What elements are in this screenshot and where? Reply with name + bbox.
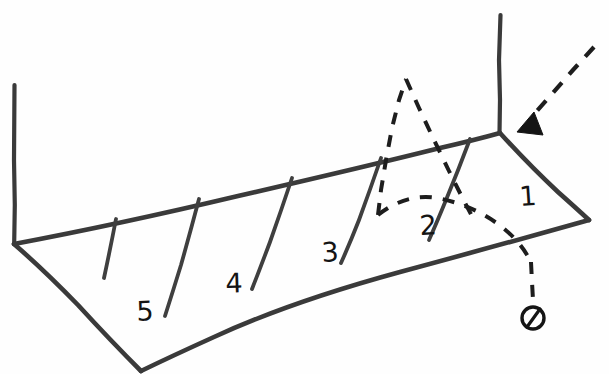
zone-label-2: 2 (419, 211, 438, 239)
sketch-canvas: 1 2 3 4 5 (0, 0, 609, 374)
ball-arc-group (378, 79, 533, 300)
court-left-edge (14, 244, 141, 371)
zone-divider-3-4 (252, 178, 292, 289)
incoming-trajectory-group (517, 47, 594, 135)
ball-drop-line (531, 262, 533, 300)
incoming-trajectory-line (536, 47, 594, 112)
court-near-edge (141, 220, 589, 371)
trajectory-arrow-icon (517, 112, 543, 135)
zone-divider-4-5 (165, 199, 199, 316)
ball-slash-icon (527, 309, 540, 327)
zone-label-3: 3 (321, 238, 340, 266)
court-diagram-svg (0, 0, 609, 374)
zone-label-5: 5 (136, 297, 154, 325)
ball-arc-bounce-curve (378, 197, 531, 262)
right-net-post (499, 15, 501, 133)
zone-label-4: 4 (225, 269, 243, 297)
zone-dividers-group (104, 139, 470, 316)
zone-divider-2-3 (341, 158, 381, 263)
ball-arc-ascending (378, 79, 406, 215)
ball-marker-group (522, 307, 544, 329)
court-outline-group (14, 133, 589, 371)
zone-label-1: 1 (518, 182, 537, 210)
court-right-edge (500, 133, 589, 220)
left-net-post (14, 85, 15, 243)
